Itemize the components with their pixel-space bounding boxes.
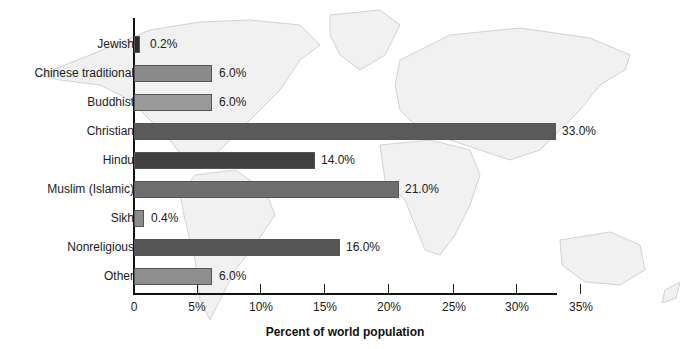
x-tick-15	[324, 284, 325, 294]
value-label-nonreligious: 16.0%	[346, 240, 380, 254]
x-tick-label-30: 30%	[505, 300, 529, 314]
bar-nonreligious	[134, 239, 340, 256]
x-tick-label-15: 15%	[313, 300, 337, 314]
bar-jewish	[134, 36, 140, 53]
bar-other	[134, 268, 212, 285]
bar-hindu	[134, 152, 315, 169]
x-tick-label-5: 5%	[188, 300, 205, 314]
value-label-other: 6.0%	[219, 269, 246, 283]
category-label-nonreligious: Nonreligious	[67, 240, 134, 254]
category-label-other: Other	[104, 269, 134, 283]
x-tick-5	[197, 284, 198, 294]
bar-muslim	[134, 181, 399, 198]
x-axis-title: Percent of world population	[266, 325, 425, 339]
x-tick-label-0: 0	[131, 300, 138, 314]
category-label-sikh: Sikh	[111, 211, 134, 225]
category-label-hindu: Hindu	[103, 153, 134, 167]
x-tick-25	[453, 284, 454, 294]
bar-christian	[134, 123, 556, 140]
x-tick-label-35: 35%	[569, 300, 593, 314]
x-tick-label-20: 20%	[377, 300, 401, 314]
value-label-sikh: 0.4%	[151, 211, 178, 225]
x-tick-label-10: 10%	[249, 300, 273, 314]
value-label-christian: 33.0%	[562, 124, 596, 138]
x-tick-20	[388, 284, 389, 294]
value-label-jewish: 0.2%	[150, 37, 177, 51]
category-label-muslim: Muslim (Islamic)	[47, 182, 134, 196]
category-label-jewish: Jewish	[97, 37, 134, 51]
value-label-hindu: 14.0%	[321, 153, 355, 167]
bar-chinese-traditional	[134, 65, 212, 82]
world-map-background	[0, 0, 700, 349]
value-label-buddhist: 6.0%	[219, 95, 246, 109]
category-label-chinese-traditional: Chinese traditional	[35, 66, 134, 80]
value-label-muslim: 21.0%	[405, 182, 439, 196]
x-tick-30	[516, 284, 517, 294]
category-label-buddhist: Buddhist	[87, 95, 134, 109]
x-tick-label-25: 25%	[442, 300, 466, 314]
x-tick-10	[260, 284, 261, 294]
value-label-chinese-traditional: 6.0%	[219, 66, 246, 80]
x-tick-35	[580, 284, 581, 294]
bar-sikh	[134, 210, 144, 227]
category-label-christian: Christian	[87, 124, 134, 138]
bar-buddhist	[134, 94, 212, 111]
